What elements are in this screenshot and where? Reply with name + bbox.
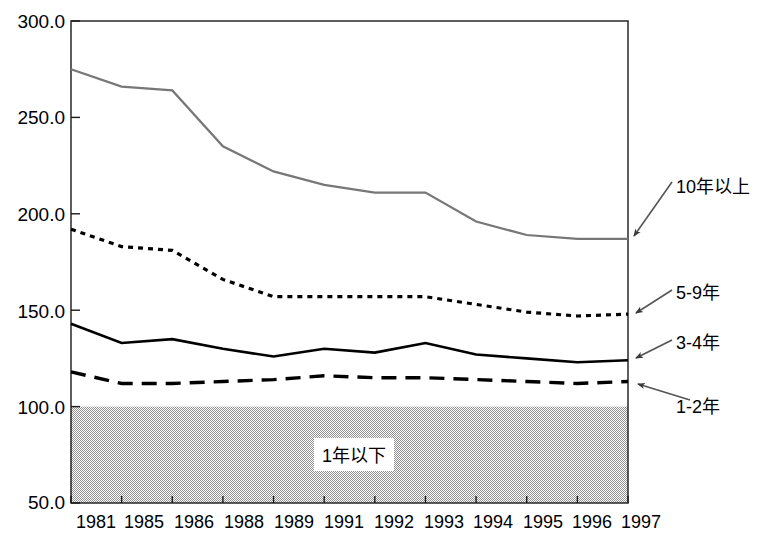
annotation-arrow-3-4years — [636, 340, 672, 358]
band-label-1year-or-less: 1年以下 — [314, 438, 394, 471]
annotation-label-1-2years: 1-2年 — [676, 392, 720, 418]
annotation-label-5-9years: 5-9年 — [676, 278, 720, 304]
series-line-3-4years — [71, 324, 628, 363]
annotation-arrow-10years-or-more — [634, 182, 672, 236]
annotation-label-10years-or-more: 10年以上 — [676, 172, 750, 198]
series-line-5-9years — [71, 229, 628, 316]
series-line-10years-or-more — [71, 69, 628, 239]
annotation-label-3-4years: 3-4年 — [676, 328, 720, 354]
line-chart: 300.0 250.0 200.0 150.0 100.0 50.0 1981 … — [0, 0, 762, 549]
series-line-1-2years — [71, 372, 628, 384]
annotation-arrow-5-9years — [636, 290, 672, 313]
